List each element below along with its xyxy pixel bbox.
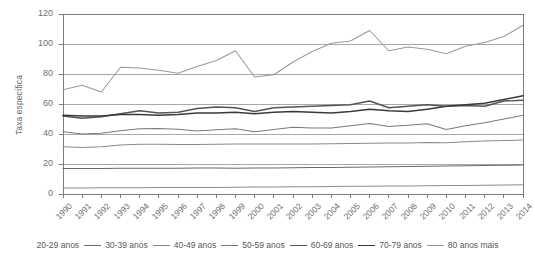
legend-item-label: 20-29 anos	[37, 240, 80, 250]
series-line-70-79-anos	[63, 96, 523, 116]
legend-line-swatch-icon	[153, 245, 170, 246]
legend-item[interactable]: 60-69 anos	[290, 240, 354, 250]
legend-item[interactable]: 40-49 anos	[153, 240, 217, 250]
series-line-50-59-anos	[63, 115, 523, 134]
legend-line-swatch-icon	[221, 245, 238, 246]
series-line-80-anos-mais	[63, 25, 523, 92]
legend-item[interactable]: 80 anos mais	[427, 240, 499, 250]
legend-item[interactable]: 70-79 anos	[358, 240, 422, 250]
legend-item-label: 30-39 anos	[105, 240, 148, 250]
series-line-30-39-anos	[63, 165, 523, 169]
series-line-20-29-anos	[63, 185, 523, 188]
legend-line-swatch-icon	[290, 245, 307, 246]
legend-item-label: 80 anos mais	[448, 240, 499, 250]
series-line-60-69-anos	[63, 100, 523, 118]
chart-legend: 20-29 anos30-39 anos40-49 anos50-59 anos…	[0, 240, 535, 250]
legend-item-label: 40-49 anos	[174, 240, 217, 250]
legend-item-label: 50-59 anos	[242, 240, 285, 250]
series-line-40-49-anos	[63, 140, 523, 148]
chart-container: Taxa específica 020406080100120 19901991…	[0, 0, 535, 266]
legend-item[interactable]: 50-59 anos	[221, 240, 285, 250]
legend-line-swatch-icon	[358, 245, 375, 246]
legend-item[interactable]: 30-39 anos	[84, 240, 148, 250]
legend-item-label: 60-69 anos	[311, 240, 354, 250]
legend-line-swatch-icon	[427, 245, 444, 246]
legend-item[interactable]: 20-29 anos	[37, 240, 80, 250]
legend-line-swatch-icon	[84, 245, 101, 246]
plot-area	[0, 0, 535, 266]
gridlines	[63, 14, 523, 194]
legend-item-label: 70-79 anos	[379, 240, 422, 250]
